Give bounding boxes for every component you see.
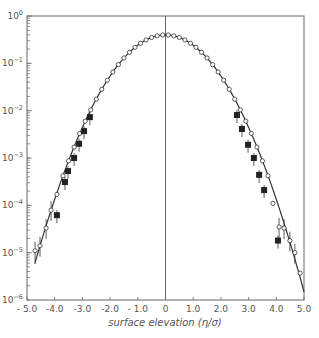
open-circle-marker xyxy=(150,35,154,39)
y-tick-label: 10−3 xyxy=(2,151,23,163)
open-circle-marker xyxy=(105,78,109,82)
open-circle-marker xyxy=(293,251,297,255)
open-circle-marker xyxy=(61,174,65,178)
open-circle-marker xyxy=(33,249,37,253)
y-axis-labels: 10010−110−210−310−410−510−6 xyxy=(2,9,23,305)
open-circle-marker xyxy=(55,192,59,196)
open-circle-marker xyxy=(155,34,159,38)
open-circle-marker xyxy=(260,159,264,163)
open-circle-marker xyxy=(83,119,87,123)
open-circle-markers xyxy=(33,33,302,275)
x-tick-label: -2.0 xyxy=(101,304,119,314)
filled-square-marker xyxy=(245,142,251,148)
open-circle-marker xyxy=(249,131,253,135)
y-tick-label: 10−1 xyxy=(2,56,23,68)
x-tick-label: 5.0 xyxy=(297,304,312,314)
open-circle-marker xyxy=(94,97,98,101)
open-circle-marker xyxy=(227,87,231,91)
open-circle-marker xyxy=(100,87,104,91)
open-circle-marker xyxy=(271,201,275,205)
open-circle-marker xyxy=(255,145,259,149)
x-axis-labels: - 5.0-4.0-3.0-2.0- 1.001.02.03.04.05.0 xyxy=(17,304,312,314)
error-bars xyxy=(35,110,295,264)
open-circle-marker xyxy=(222,78,226,82)
y-tick-label: 10−2 xyxy=(2,104,23,116)
x-tick-label: -3.0 xyxy=(74,304,92,314)
open-circle-marker xyxy=(244,119,248,123)
open-circle-marker xyxy=(298,271,302,275)
open-circle-marker xyxy=(116,63,120,67)
x-axis-title: surface elevation (η/σ) xyxy=(108,317,221,328)
open-circle-marker xyxy=(233,97,237,101)
open-circle-marker xyxy=(72,145,76,149)
open-circle-marker xyxy=(127,50,131,54)
open-circle-marker xyxy=(216,70,220,74)
open-circle-marker xyxy=(183,38,187,42)
filled-square-markers xyxy=(54,112,281,244)
x-tick-label: 0 xyxy=(163,304,169,314)
filled-square-marker xyxy=(76,141,82,147)
open-circle-marker xyxy=(172,34,176,38)
open-circle-marker xyxy=(89,108,93,112)
open-circle-marker xyxy=(205,56,209,60)
y-tick-label: 10−5 xyxy=(2,246,23,258)
open-circle-marker xyxy=(282,226,286,230)
open-circle-marker xyxy=(66,159,70,163)
x-tick-label: -4.0 xyxy=(46,304,64,314)
open-circle-marker xyxy=(49,208,53,212)
x-tick-label: 3.0 xyxy=(241,304,256,314)
open-circle-marker xyxy=(122,56,126,60)
open-circle-marker xyxy=(44,226,48,230)
open-circle-marker xyxy=(199,50,203,54)
y-tick-label: 10−4 xyxy=(2,198,23,210)
filled-square-marker xyxy=(256,172,262,178)
gaussian-curve xyxy=(35,35,304,292)
open-circle-marker xyxy=(238,108,242,112)
chart: 10010−110−210−310−410−510−6 - 5.0-4.0-3.… xyxy=(0,0,319,338)
filled-square-marker xyxy=(239,126,245,132)
filled-square-marker xyxy=(65,168,71,174)
open-circle-marker xyxy=(161,33,165,37)
open-circle-marker xyxy=(194,45,198,49)
x-tick-label: - 5.0 xyxy=(17,304,38,314)
x-tick-label: 4.0 xyxy=(269,304,284,314)
open-circle-marker xyxy=(144,38,148,42)
y-tick-label: 100 xyxy=(7,9,23,21)
filled-square-marker xyxy=(71,155,77,161)
filled-square-marker xyxy=(275,238,281,244)
filled-square-marker xyxy=(251,155,257,161)
x-tick-label: 1.0 xyxy=(186,304,201,314)
filled-square-marker xyxy=(261,187,267,193)
open-circle-marker xyxy=(133,45,137,49)
x-tick-label: - 1.0 xyxy=(128,304,149,314)
open-circle-marker xyxy=(210,63,214,67)
filled-square-marker xyxy=(54,212,60,218)
filled-square-marker xyxy=(62,179,68,185)
open-circle-marker xyxy=(277,225,281,229)
open-circle-marker xyxy=(188,41,192,45)
x-tick-label: 2.0 xyxy=(214,304,229,314)
filled-square-marker xyxy=(234,112,240,118)
open-circle-marker xyxy=(266,174,270,178)
open-circle-marker xyxy=(38,244,42,248)
filled-square-marker xyxy=(87,114,93,120)
open-circle-marker xyxy=(138,41,142,45)
open-circle-marker xyxy=(166,33,170,37)
open-circle-marker xyxy=(288,238,292,242)
open-circle-marker xyxy=(111,70,115,74)
open-circle-marker xyxy=(177,35,181,39)
filled-square-marker xyxy=(81,128,87,134)
